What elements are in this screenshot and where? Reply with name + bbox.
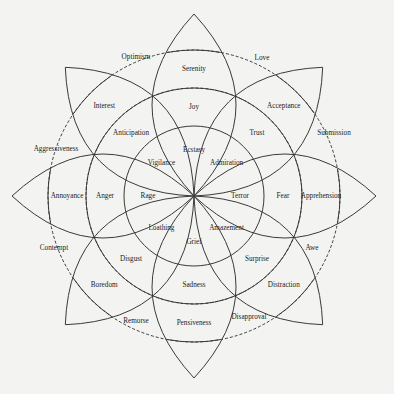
emotion-label-loathing: Loathing <box>148 224 174 232</box>
dyad-label-remorse: Remorse <box>123 317 149 325</box>
dyad-label-aggressiveness: Aggressiveness <box>34 145 79 153</box>
emotion-label-annoyance: Annoyance <box>51 192 84 200</box>
petal-divider-arc <box>86 155 94 236</box>
emotion-label-interest: Interest <box>93 102 115 110</box>
emotion-label-serenity: Serenity <box>182 65 206 73</box>
dyad-label-optimism: Optimism <box>122 53 151 61</box>
emotion-label-surprise: Surprise <box>245 255 269 263</box>
emotion-label-fear: Fear <box>277 192 290 200</box>
dyad-label-love: Love <box>255 54 270 62</box>
emotion-wheel-diagram: EcstasyJoySerenityAdmirationTrustAccepta… <box>0 0 394 394</box>
emotion-label-apprehension: Apprehension <box>301 192 342 200</box>
emotion-label-vigilance: Vigilance <box>148 159 176 167</box>
emotion-label-anger: Anger <box>96 192 115 200</box>
labels-group: EcstasyJoySerenityAdmirationTrustAccepta… <box>34 53 352 327</box>
emotion-label-acceptance: Acceptance <box>267 102 301 110</box>
petal-divider-arc <box>153 88 234 96</box>
emotion-label-anticipation: Anticipation <box>113 129 149 137</box>
dyad-label-disapproval: Disapproval <box>231 313 266 321</box>
emotion-label-boredom: Boredom <box>91 281 118 289</box>
emotion-label-rage: Rage <box>141 192 156 200</box>
petal-divider-arc <box>167 340 220 342</box>
emotion-label-distraction: Distraction <box>268 281 300 289</box>
emotion-label-terror: Terror <box>231 192 249 200</box>
emotion-label-grief: Grief <box>186 238 202 246</box>
emotion-label-pensiveness: Pensiveness <box>177 319 212 327</box>
emotion-label-trust: Trust <box>249 129 264 137</box>
emotion-label-amazement: Amazement <box>209 224 244 232</box>
petal-divider-arc <box>167 50 220 52</box>
petal-divider-arc <box>153 296 234 304</box>
dyad-label-awe: Awe <box>306 244 319 252</box>
emotion-label-joy: Joy <box>189 103 199 111</box>
dyad-label-contempt: Contempt <box>40 244 68 252</box>
dyad-label-submission: Submission <box>317 129 351 137</box>
emotion-label-ecstasy: Ecstasy <box>183 146 205 154</box>
emotion-label-admiration: Admiration <box>210 159 244 167</box>
emotion-label-sadness: Sadness <box>182 281 205 289</box>
emotion-label-disgust: Disgust <box>120 255 142 263</box>
